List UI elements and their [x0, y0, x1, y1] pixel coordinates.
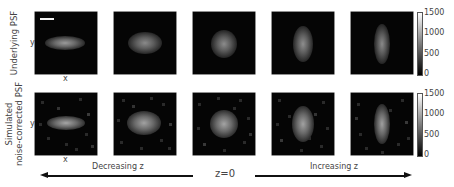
decreasing-z-caption: Decreasing z [92, 162, 144, 171]
psf-panel-row1-z-minus1 [114, 12, 176, 74]
row-label-line2: noise-corrected PSF [14, 79, 24, 169]
x-axis-label-row2: x [63, 155, 68, 164]
psf-panel-row2-z-plus1 [272, 93, 334, 155]
psf-blob [210, 110, 238, 138]
psf-blob [292, 106, 314, 142]
psf-blob [293, 26, 313, 62]
colorbar-tick: 0 [424, 70, 429, 78]
colorbar-tick: 1000 [424, 110, 444, 118]
colorbar-tick: 1000 [424, 29, 444, 37]
row-label-simulated-psf: Simulated noise-corrected PSF [4, 79, 24, 169]
x-axis-label-row1: x [63, 74, 68, 83]
psf-panel-row1-z-minus2 [35, 12, 97, 74]
psf-blob [374, 104, 390, 144]
psf-blob [374, 24, 390, 64]
colorbar-tick: 1500 [424, 90, 444, 98]
psf-panel-row2-z-0 [193, 93, 255, 155]
increasing-z-caption: Increasing z [310, 162, 358, 171]
left-arrow-line [46, 175, 193, 177]
psf-panel-row2-z-plus2 [351, 93, 413, 155]
psf-blob [47, 116, 85, 130]
scale-bar [40, 18, 54, 20]
colorbar-tick: 500 [424, 131, 439, 139]
psf-blob [211, 30, 237, 58]
colorbar-row2 [417, 93, 423, 157]
row-label-underlying-psf: Underlying PSF [9, 3, 19, 83]
z-zero-label: z=0 [215, 168, 235, 179]
colorbar-tick: 1500 [424, 9, 444, 17]
colorbar-row1 [417, 12, 423, 76]
psf-panel-row1-z-plus1 [272, 12, 334, 74]
colorbar-tick: 0 [424, 151, 429, 159]
psf-blob [45, 36, 85, 50]
psf-blob [128, 32, 162, 54]
psf-panel-row2-z-minus2 [35, 93, 97, 155]
colorbar-tick: 500 [424, 50, 439, 58]
psf-blob [127, 111, 161, 135]
psf-panel-row1-z-0 [193, 12, 255, 74]
psf-panel-row1-z-plus2 [351, 12, 413, 74]
row-label-line1: Simulated [4, 79, 14, 169]
psf-panel-row2-z-minus1 [114, 93, 176, 155]
right-arrow-icon [404, 172, 412, 178]
right-arrow-line [255, 175, 405, 177]
